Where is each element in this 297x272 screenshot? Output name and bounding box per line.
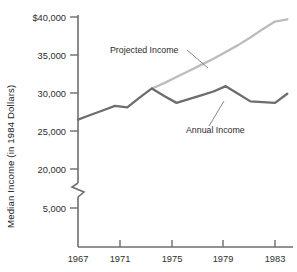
x-tick-label-1983: 1983 (265, 254, 286, 264)
x-tick-label-1975: 1975 (162, 254, 183, 264)
annotation-annual-income-label: Annual Income (186, 125, 245, 135)
annotation-annual-income-leader (209, 101, 224, 126)
x-axis (78, 240, 293, 247)
y-tick-label-40000: $40,000 (32, 13, 66, 23)
y-axis-title: Median Income (in 1984 Dollars) (5, 85, 16, 228)
y-axis-tick-labels: $40,000 35,000 30,000 25,000 20,000 5,00… (32, 13, 66, 214)
income-line-chart: Median Income (in 1984 Dollars) $40,000 … (0, 0, 297, 272)
chart-canvas: Median Income (in 1984 Dollars) $40,000 … (0, 0, 297, 272)
y-tick-label-20000: 20,000 (38, 165, 66, 175)
x-tick-label-1967: 1967 (68, 254, 89, 264)
annotation-annual-income: Annual Income (186, 101, 245, 135)
annotation-projected-income-label: Projected Income (110, 45, 179, 55)
y-tick-label-5000: 5,000 (43, 204, 66, 214)
x-tick-label-1979: 1979 (213, 254, 234, 264)
series-line-annual-income (78, 86, 287, 119)
x-axis-tick-labels: 1967 1971 1975 1979 1983 (68, 254, 286, 264)
y-tick-label-35000: 35,000 (38, 51, 66, 61)
y-tick-label-25000: 25,000 (38, 127, 66, 137)
annotation-projected-income: Projected Income (110, 45, 208, 68)
y-axis-title-text: Median Income (in 1984 Dollars) (5, 85, 16, 228)
y-tick-label-30000: 30,000 (38, 89, 66, 99)
annotation-projected-income-leader (187, 50, 208, 68)
x-tick-label-1971: 1971 (110, 254, 131, 264)
y-axis-break-icon (72, 183, 84, 197)
y-axis-ticks (70, 17, 78, 208)
